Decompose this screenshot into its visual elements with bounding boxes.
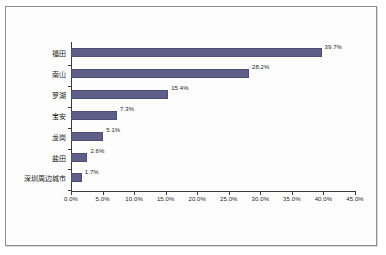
bar-row: 2.6% — [0, 149, 386, 170]
bar-value-label: 15.4% — [171, 85, 189, 91]
value-tick — [71, 192, 72, 195]
bar-row: 7.3% — [0, 107, 386, 128]
bar-chart: 福田南山罗湖宝安龙岗盐田深圳周边城市 39.7%28.2%15.4%7.3%5.… — [0, 0, 386, 255]
value-tick — [197, 192, 198, 195]
value-tick — [260, 192, 261, 195]
value-tick-label: 0.0% — [64, 196, 78, 202]
scanned-page: 福田南山罗湖宝安龙岗盐田深圳周边城市 39.7%28.2%15.4%7.3%5.… — [0, 0, 386, 255]
bar-row: 39.7% — [0, 44, 386, 65]
value-tick-label: 15.0% — [157, 196, 175, 202]
value-tick-label: 35.0% — [283, 196, 301, 202]
bar — [71, 48, 322, 57]
value-tick-label: 30.0% — [252, 196, 270, 202]
bar — [71, 132, 103, 141]
value-tick-label: 20.0% — [188, 196, 206, 202]
value-tick-label: 40.0% — [315, 196, 333, 202]
value-tick-label: 25.0% — [220, 196, 238, 202]
value-tick — [134, 192, 135, 195]
bar-row: 15.4% — [0, 86, 386, 107]
value-axis-line — [71, 191, 356, 192]
value-tick — [229, 192, 230, 195]
bar-value-label: 39.7% — [325, 44, 343, 50]
bar — [71, 69, 249, 78]
bar-row: 5.1% — [0, 128, 386, 149]
value-tick — [323, 192, 324, 195]
value-tick — [166, 192, 167, 195]
bar-value-label: 5.1% — [106, 127, 120, 133]
bar — [71, 90, 168, 99]
value-tick — [103, 192, 104, 195]
bar-value-label: 1.7% — [85, 169, 99, 175]
value-tick-label: 10.0% — [125, 196, 143, 202]
bar-row: 28.2% — [0, 65, 386, 86]
bar-value-label: 7.3% — [120, 106, 134, 112]
value-tick-label: 5.0% — [96, 196, 110, 202]
bar-value-label: 28.2% — [252, 64, 270, 70]
value-tick — [355, 192, 356, 195]
bar — [71, 173, 82, 182]
bar — [71, 111, 117, 120]
value-tick — [292, 192, 293, 195]
bar-value-label: 2.6% — [90, 148, 104, 154]
bar — [71, 153, 87, 162]
value-tick-label: 45.0% — [346, 196, 364, 202]
bar-row: 1.7% — [0, 169, 386, 190]
